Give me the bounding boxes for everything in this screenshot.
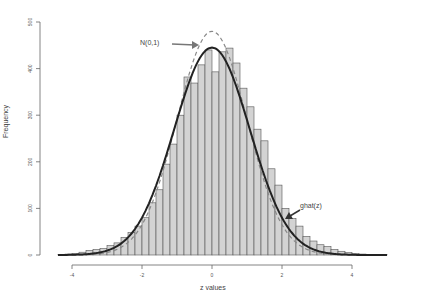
svg-text:0: 0: [27, 253, 33, 256]
histogram-bar: [142, 218, 149, 255]
y-axis-label: Frequency: [2, 105, 9, 138]
svg-text:500: 500: [27, 18, 33, 27]
histogram-bar: [205, 50, 212, 255]
svg-text:2: 2: [281, 272, 284, 278]
histogram-bar: [275, 185, 282, 255]
svg-text:-2: -2: [140, 272, 145, 278]
svg-text:0: 0: [211, 272, 214, 278]
histogram-bar: [226, 48, 233, 255]
x-axis-label: z values: [200, 284, 226, 291]
normal-annotation: N(0,1): [140, 39, 159, 46]
svg-text:200: 200: [27, 157, 33, 166]
svg-text:100: 100: [27, 204, 33, 213]
svg-text:400: 400: [27, 64, 33, 73]
histogram-bar: [135, 226, 142, 255]
histogram-bars: [58, 48, 387, 255]
x-axis: -4-2024: [70, 265, 354, 278]
histogram-bar: [268, 169, 275, 255]
histogram-bar: [156, 190, 163, 255]
histogram-bar: [191, 83, 198, 255]
svg-text:-4: -4: [70, 272, 75, 278]
svg-text:300: 300: [27, 111, 33, 120]
histogram-bar: [219, 52, 226, 255]
histogram-bar: [177, 115, 184, 255]
histogram-bar: [149, 203, 156, 255]
histogram-bar: [170, 144, 177, 255]
histogram-bar: [261, 141, 268, 255]
svg-text:4: 4: [351, 272, 354, 278]
ghat-annotation: ghat(z): [300, 202, 322, 209]
y-axis: 0100200300400500: [27, 18, 40, 257]
histogram-bar: [184, 77, 191, 255]
histogram-bar: [212, 72, 219, 255]
histogram-chart: 0100200300400500 -4-2024: [0, 0, 423, 302]
histogram-bar: [163, 164, 170, 255]
histogram-bar: [198, 65, 205, 255]
